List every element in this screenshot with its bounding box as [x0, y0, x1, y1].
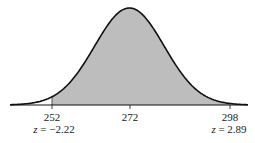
z-label-right: z = 2.89	[211, 123, 246, 135]
z-label-left: z = −2.22	[33, 123, 74, 135]
tick-label-272: 272	[122, 111, 139, 123]
shaded-area	[52, 8, 230, 105]
tick-label-298: 298	[222, 111, 239, 123]
tick-label-252: 252	[44, 111, 61, 123]
